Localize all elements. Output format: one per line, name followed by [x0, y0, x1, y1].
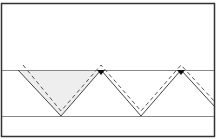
zigzag-diagram	[0, 0, 222, 139]
background	[0, 0, 222, 139]
